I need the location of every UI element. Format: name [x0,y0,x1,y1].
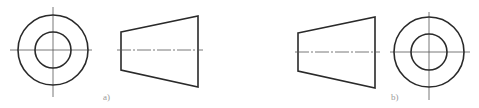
view-a-label: a) [103,92,110,102]
view-b-trapezoid-view [295,17,380,88]
view-b-label: b) [391,92,399,102]
orthographic-views-diagram: a) b) [0,0,479,108]
view-b-circle-view [390,12,470,100]
view-a-circle-view [10,7,92,97]
frustum-outline [298,17,375,88]
view-a-trapezoid-view [117,16,203,87]
frustum-outline [121,16,198,87]
